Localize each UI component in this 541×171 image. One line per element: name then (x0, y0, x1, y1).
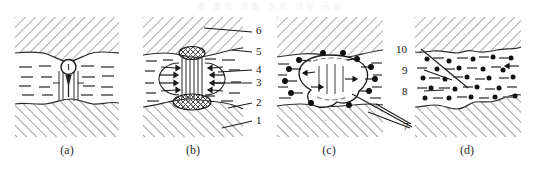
svg-text:−: − (462, 29, 467, 39)
panel-d: − + (415, 17, 521, 137)
figure-discharge-channel-stages: 图 放电 通道 发展 过程 示意 (0, 0, 541, 171)
callout-7: 7 (403, 121, 409, 132)
svg-text:+: + (62, 115, 68, 127)
caption-panel-d: (d) (412, 143, 522, 158)
callout-9: 9 (402, 65, 408, 76)
panel-a: − + (15, 17, 119, 137)
callout-8: 8 (402, 86, 408, 97)
callout-1: 1 (256, 115, 262, 126)
callout-2: 2 (256, 97, 262, 108)
svg-text:+: + (322, 114, 328, 126)
figure-top-faint-caption: 图 放电 通道 发展 过程 示意 (0, 0, 541, 11)
svg-text:+: + (186, 114, 192, 126)
callout-3: 3 (256, 77, 262, 88)
callout-6: 6 (256, 25, 262, 36)
callout-5: 5 (256, 46, 262, 57)
caption-panel-a: (a) (12, 143, 122, 158)
svg-text:−: − (187, 29, 192, 39)
caption-panel-b: (b) (138, 143, 248, 158)
svg-text:−: − (65, 30, 70, 40)
svg-text:+: + (464, 113, 470, 125)
svg-text:−: − (322, 31, 327, 41)
callout-10: 10 (396, 44, 407, 55)
panel-b: − + (143, 17, 243, 137)
callout-4: 4 (256, 64, 262, 75)
panel-c: − + (277, 17, 383, 137)
caption-panel-c: (c) (274, 143, 384, 158)
